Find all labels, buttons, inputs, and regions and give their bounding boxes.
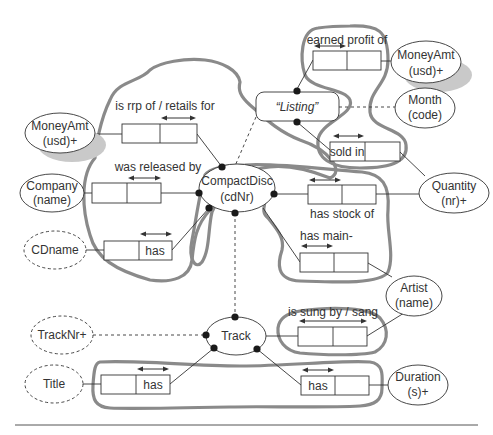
fact-reading: has stock of bbox=[310, 207, 375, 221]
entity-listing[interactable]: “Listing” bbox=[256, 92, 339, 121]
entity-name: Company bbox=[26, 179, 77, 193]
fact-reading: is sung by / sang bbox=[288, 305, 378, 319]
uniqueness-arrow-icon bbox=[333, 134, 364, 139]
fact-sold-in[interactable]: sold in bbox=[330, 134, 400, 162]
connector-listing-compactdisc bbox=[235, 117, 256, 166]
fact-reading: is rrp of / retails for bbox=[115, 99, 214, 113]
entity-moneyamt-right[interactable]: MoneyAmt (usd)+ bbox=[391, 41, 472, 92]
uniqueness-arrow-icon bbox=[302, 368, 334, 373]
entity-duration[interactable]: Duration (s)+ bbox=[388, 365, 448, 405]
mandatory-dot-icon bbox=[270, 190, 277, 197]
fact-sung-by[interactable]: is sung by / sang bbox=[288, 305, 378, 346]
entity-name: CompactDisc bbox=[201, 174, 272, 188]
mandatory-dot-icon bbox=[205, 204, 212, 211]
entity-ref-mode: (name) bbox=[395, 296, 433, 310]
entity-ref-mode: (usd)+ bbox=[409, 64, 443, 78]
entity-moneyamt-left[interactable]: MoneyAmt (usd)+ bbox=[25, 113, 106, 162]
entity-title[interactable]: Title bbox=[25, 365, 83, 403]
entity-name: Month bbox=[408, 93, 441, 107]
connector-listing-earned-profit bbox=[297, 60, 313, 89]
fact-released-by[interactable]: was released by bbox=[92, 160, 201, 203]
mandatory-dot-icon bbox=[253, 345, 260, 352]
mandatory-dot-icon bbox=[218, 163, 225, 170]
fact-has-main[interactable]: has main- bbox=[300, 229, 368, 272]
entity-name: Artist bbox=[400, 281, 428, 295]
mandatory-dot-icon bbox=[195, 189, 202, 196]
entity-name: Quantity bbox=[432, 179, 477, 193]
fact-track-title[interactable]: has bbox=[101, 367, 170, 395]
entity-name: MoneyAmt bbox=[397, 48, 455, 62]
fact-track-duration[interactable]: has bbox=[301, 368, 369, 396]
entity-ref-mode: (code) bbox=[408, 108, 442, 122]
entity-company[interactable]: Company (name) bbox=[20, 174, 84, 212]
entity-quantity[interactable]: Quantity (nr)+ bbox=[419, 173, 489, 213]
entity-ref-mode: (name) bbox=[33, 193, 71, 207]
entity-ref-mode: (usd)+ bbox=[43, 134, 77, 148]
entity-name: Title bbox=[43, 377, 66, 391]
entity-name: TrackNr+ bbox=[37, 328, 86, 342]
fact-reading: sold in bbox=[330, 145, 365, 159]
uniqueness-arrow-icon bbox=[137, 367, 169, 372]
mandatory-dot-icon bbox=[293, 87, 300, 94]
fact-earned-profit[interactable]: earned profit of bbox=[307, 33, 388, 70]
entity-cdname[interactable]: CDname bbox=[24, 231, 86, 269]
mandatory-dot-icon bbox=[293, 118, 300, 125]
orm-diagram: MoneyAmt (usd)+ Month (code) “Listing” Q… bbox=[0, 0, 493, 435]
uniqueness-arrow-icon bbox=[299, 319, 367, 324]
fact-reading: was released by bbox=[114, 160, 202, 174]
uniqueness-arrow-icon bbox=[140, 232, 172, 237]
entity-name: Track bbox=[221, 329, 252, 343]
fact-cd-has-name[interactable]: has bbox=[104, 232, 172, 261]
entity-name: Duration bbox=[395, 370, 440, 384]
entity-ref-mode: (s)+ bbox=[408, 385, 429, 399]
entity-ref-mode: (nr)+ bbox=[441, 194, 467, 208]
uniqueness-arrow-icon bbox=[161, 116, 196, 121]
connector-sold-in-quantity bbox=[400, 152, 425, 176]
fact-reading: has bbox=[308, 379, 327, 393]
entity-artist[interactable]: Artist (name) bbox=[386, 276, 442, 316]
fact-reading: has bbox=[143, 378, 162, 392]
fact-retails-for[interactable]: is rrp of / retails for bbox=[115, 99, 214, 143]
mandatory-dot-icon bbox=[231, 209, 238, 216]
uniqueness-arrow-icon bbox=[309, 178, 341, 183]
mandatory-dot-icon bbox=[202, 331, 209, 338]
fact-has-stock-of[interactable]: has stock of bbox=[308, 178, 376, 222]
entity-name: “Listing” bbox=[276, 100, 320, 114]
entity-month[interactable]: Month (code) bbox=[395, 88, 455, 128]
uniqueness-arrow-icon bbox=[128, 176, 161, 181]
entity-name: CDname bbox=[31, 243, 79, 257]
uniqueness-arrow-icon bbox=[301, 244, 333, 249]
fact-reading: has bbox=[145, 244, 164, 258]
fact-reading: has main- bbox=[300, 229, 353, 243]
mandatory-dot-icon bbox=[210, 344, 217, 351]
entity-name: MoneyAmt bbox=[31, 119, 89, 133]
entity-tracknr[interactable]: TrackNr+ bbox=[31, 316, 93, 354]
mandatory-dot-icon bbox=[231, 313, 238, 320]
entity-ref-mode: (cdNr) bbox=[220, 190, 253, 204]
